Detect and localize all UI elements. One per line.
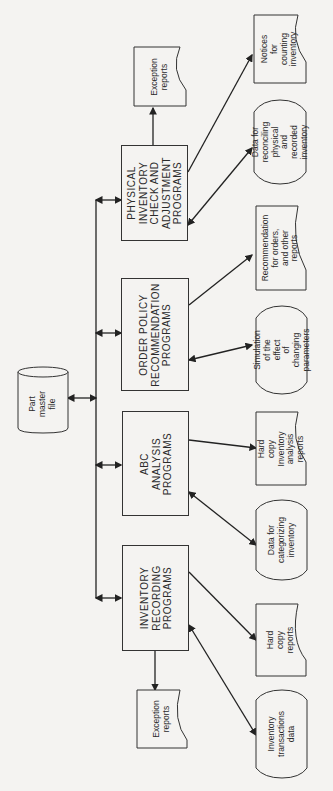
part-master-file: Part master file (18, 376, 68, 432)
physical-inventory-programs-box: PHYSICAL INVENTORY CHECK AND ADJUSTMENT … (121, 145, 188, 241)
data-for-reconciling-inventory: Data for reconciling physical and record… (254, 100, 306, 184)
simulation-changing-parameters: Simulation of the effect of changing par… (256, 306, 307, 394)
inventory-recording-programs-box: INVENTORY RECORDING PROGRAMS (122, 545, 189, 651)
order-policy-programs-box: ORDER POLICY RECOMMENDATION PROGRAMS (121, 278, 189, 391)
notices-for-counting-inventory: Notices for counting inventory (254, 15, 306, 83)
hard-copy-reports: Hard copy reports (256, 604, 306, 676)
recommendation-reports: Recommendation for orders, and other rep… (256, 206, 306, 290)
exception-reports-recording: Exception reports (137, 690, 187, 748)
exception-reports-physical: Exception reports (134, 47, 186, 106)
abc-analysis-programs-box: ABC ANALYSIS PROGRAMS (122, 411, 189, 516)
hard-copy-inventory-analysis-reports: Hard copy Inventory analysis reports (256, 412, 306, 485)
data-for-categorizing-inventory: Data for categorizing inventory (256, 500, 307, 580)
inventory-transactions-data: Inventory transactions data (256, 690, 307, 778)
